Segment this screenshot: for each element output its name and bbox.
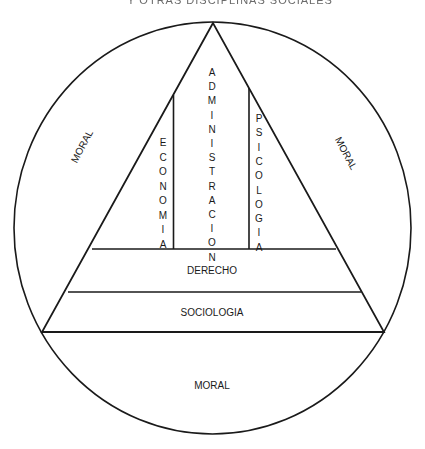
- disciplines-diagram: ECONOMIA ADMINISTRACION PSICOLOGIA DEREC…: [0, 0, 425, 449]
- label-sociologia: SOCIOLOGIA: [181, 307, 244, 318]
- column-letter: I: [162, 224, 165, 235]
- column-letter: O: [255, 199, 263, 210]
- column-letter: R: [208, 181, 215, 192]
- column-letter: I: [258, 227, 261, 238]
- column-letter: N: [159, 181, 166, 192]
- column-letter: I: [211, 110, 214, 121]
- column-letter: A: [256, 242, 263, 253]
- label-psicologia: PSICOLOGIA: [255, 113, 263, 253]
- column-letter: O: [159, 195, 167, 206]
- column-letter: S: [209, 152, 216, 163]
- column-letter: A: [209, 67, 216, 78]
- column-letter: O: [159, 166, 167, 177]
- column-letter: C: [208, 209, 215, 220]
- column-letter: G: [255, 213, 263, 224]
- label-administracion: ADMINISTRACION: [208, 67, 216, 263]
- label-moral-bottom: MORAL: [194, 380, 230, 391]
- column-letter: M: [208, 95, 216, 106]
- label-moral-right: MORAL: [333, 135, 360, 172]
- column-letter: L: [256, 185, 262, 196]
- column-letter: I: [258, 142, 261, 153]
- column-letter: N: [208, 252, 215, 263]
- column-letter: S: [256, 127, 263, 138]
- column-letter: A: [160, 239, 167, 250]
- column-letter: M: [159, 210, 167, 221]
- column-letter: E: [160, 137, 167, 148]
- column-letter: O: [255, 170, 263, 181]
- column-letter: N: [208, 124, 215, 135]
- column-letter: O: [208, 237, 216, 248]
- label-derecho: DERECHO: [187, 265, 237, 276]
- column-letter: C: [159, 152, 166, 163]
- column-letter: D: [208, 81, 215, 92]
- column-letter: P: [256, 113, 263, 124]
- column-letter: I: [211, 223, 214, 234]
- label-economia: ECONOMIA: [159, 137, 167, 250]
- label-moral-left: MORAL: [69, 128, 96, 165]
- column-letter: A: [209, 195, 216, 206]
- column-letter: C: [255, 156, 262, 167]
- column-letter: T: [209, 166, 215, 177]
- column-letter: I: [211, 138, 214, 149]
